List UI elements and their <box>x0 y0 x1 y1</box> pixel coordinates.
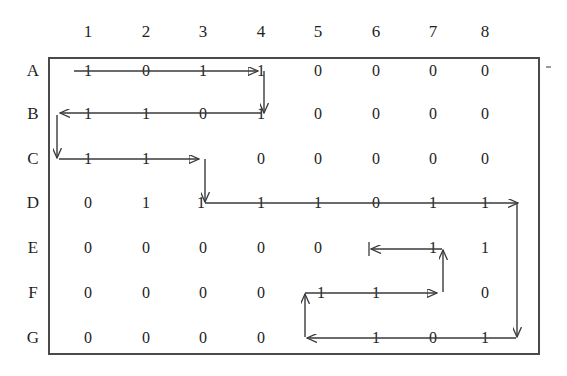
cell-F6: 1 <box>361 284 391 302</box>
cell-G4: 0 <box>246 329 276 347</box>
row-header-C: C <box>20 149 46 169</box>
cell-G3: 0 <box>188 329 218 347</box>
cell-F4: 0 <box>246 284 276 302</box>
cell-B8: 0 <box>470 105 500 123</box>
cell-G2: 0 <box>131 329 161 347</box>
cell-F8: 0 <box>470 284 500 302</box>
cell-E4: 0 <box>246 239 276 257</box>
cell-B4: 1 <box>246 105 276 123</box>
matrix-traversal-figure: 1 2 3 4 5 6 7 8 A B C D E F G 1 0 1 1 0 … <box>0 0 567 376</box>
cell-D3: 1 <box>186 194 216 212</box>
cell-G1: 0 <box>73 329 103 347</box>
cell-C6: 0 <box>361 150 391 168</box>
cell-E2: 0 <box>131 239 161 257</box>
cell-A6: 0 <box>361 62 391 80</box>
column-header-1: 1 <box>73 22 103 42</box>
cell-A2: 0 <box>131 62 161 80</box>
cell-D4: 1 <box>246 194 276 212</box>
cell-G8: 1 <box>470 329 500 347</box>
column-header-2: 2 <box>131 22 161 42</box>
column-header-3: 3 <box>188 22 218 42</box>
cell-G6: 1 <box>361 329 391 347</box>
row-header-D: D <box>20 193 46 213</box>
row-header-F: F <box>20 283 46 303</box>
cell-C5: 0 <box>303 150 333 168</box>
row-header-G: G <box>20 328 46 348</box>
row-header-A: A <box>20 61 46 81</box>
cell-C8: 0 <box>470 150 500 168</box>
cell-B3: 0 <box>188 105 218 123</box>
column-header-8: 8 <box>470 22 500 42</box>
column-header-7: 7 <box>418 22 448 42</box>
cell-D1: 0 <box>73 194 103 212</box>
column-header-5: 5 <box>303 22 333 42</box>
cell-C2: 1 <box>131 150 161 168</box>
cell-E1: 0 <box>73 239 103 257</box>
cell-B2: 1 <box>131 105 161 123</box>
row-header-E: E <box>20 238 46 258</box>
cell-C4: 0 <box>246 150 276 168</box>
cell-E3: 0 <box>188 239 218 257</box>
column-header-4: 4 <box>246 22 276 42</box>
cell-A3: 1 <box>188 62 218 80</box>
cell-D2: 1 <box>131 194 161 212</box>
cell-D5: 1 <box>303 194 333 212</box>
cell-E7: 1 <box>418 239 448 257</box>
scan-speck <box>546 66 551 68</box>
cell-F1: 0 <box>73 284 103 302</box>
cell-D7: 1 <box>418 194 448 212</box>
cell-B7: 0 <box>418 105 448 123</box>
cell-C7: 0 <box>418 150 448 168</box>
column-header-6: 6 <box>361 22 391 42</box>
cell-A5: 0 <box>303 62 333 80</box>
cell-A4: 1 <box>246 62 276 80</box>
cell-G7: 0 <box>418 329 448 347</box>
matrix-border-box <box>48 57 540 355</box>
cell-F3: 0 <box>188 284 218 302</box>
cell-D8: 1 <box>470 194 500 212</box>
cell-A8: 0 <box>470 62 500 80</box>
cell-A7: 0 <box>418 62 448 80</box>
cell-D6: 0 <box>361 194 391 212</box>
cell-C1: 1 <box>73 150 103 168</box>
cell-A1: 1 <box>73 62 103 80</box>
cell-F5: 1 <box>306 284 336 302</box>
cell-E5: 0 <box>303 239 333 257</box>
row-header-B: B <box>20 104 46 124</box>
cell-B6: 0 <box>361 105 391 123</box>
cell-B1: 1 <box>73 105 103 123</box>
cell-F2: 0 <box>131 284 161 302</box>
cell-E8: 1 <box>470 239 500 257</box>
cell-B5: 0 <box>303 105 333 123</box>
